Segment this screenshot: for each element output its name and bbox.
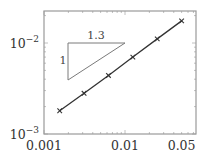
x-axis-tick-labels: 0.0010.010.05 (26, 138, 195, 153)
slope-triangle-horizontal-label: 1.3 (87, 29, 105, 42)
y-tick-label: 10−2 (10, 34, 39, 51)
axis-ticks (44, 11, 196, 134)
convergence-plot: 1.3 1 0.0010.010.05 10−310−2 (0, 0, 207, 156)
x-tick-label: 0.001 (26, 138, 62, 153)
x-tick-label: 0.01 (111, 138, 139, 153)
x-tick-label: 0.05 (168, 138, 196, 153)
slope-triangle-vertical-label: 1 (60, 54, 67, 67)
plot-frame (44, 11, 196, 134)
slope-triangle: 1.3 1 (60, 29, 126, 80)
y-axis-tick-labels: 10−310−2 (10, 34, 39, 142)
x-marker-icon (179, 19, 184, 24)
x-marker-icon (131, 55, 136, 60)
x-marker-icon (57, 108, 62, 113)
data-series (57, 19, 184, 113)
x-marker-icon (106, 73, 111, 78)
x-marker-icon (155, 37, 160, 42)
series-line (60, 21, 182, 111)
x-marker-icon (82, 91, 87, 96)
